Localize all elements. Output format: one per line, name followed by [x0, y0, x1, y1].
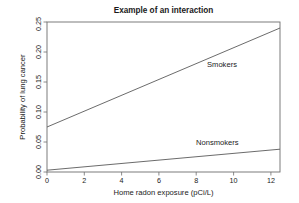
y-tick-label-2: 0.10 [34, 105, 43, 119]
y-tick-label-3: 0.15 [34, 75, 43, 89]
figure-background [0, 0, 299, 203]
y-tick-label-0: 0.00 [34, 165, 43, 179]
x-axis-label: Home radon exposure (pCi/L) [113, 188, 214, 197]
y-tick-label-5: 0.25 [34, 17, 43, 31]
series-annotation-nonsmokers: Nonsmokers [196, 138, 239, 147]
x-tick-label-1: 2 [82, 176, 86, 185]
chart-title: Example of an interaction [114, 6, 214, 15]
y-axis-label: Probability of lung cancer [18, 54, 27, 140]
interaction-line-chart: Example of an interaction 0.00 0.05 0.10… [0, 0, 299, 203]
x-tick-label-5: 10 [230, 176, 238, 185]
x-tick-label-4: 8 [194, 176, 198, 185]
x-tick-label-0: 0 [45, 176, 49, 185]
x-tick-label-3: 6 [157, 176, 161, 185]
x-tick-label-2: 4 [120, 176, 124, 185]
series-annotation-smokers: Smokers [207, 60, 237, 69]
y-tick-label-1: 0.05 [34, 135, 43, 149]
x-tick-label-6: 12 [267, 176, 275, 185]
chart-figure: Example of an interaction 0.00 0.05 0.10… [0, 0, 299, 203]
y-tick-label-4: 0.20 [34, 45, 43, 59]
